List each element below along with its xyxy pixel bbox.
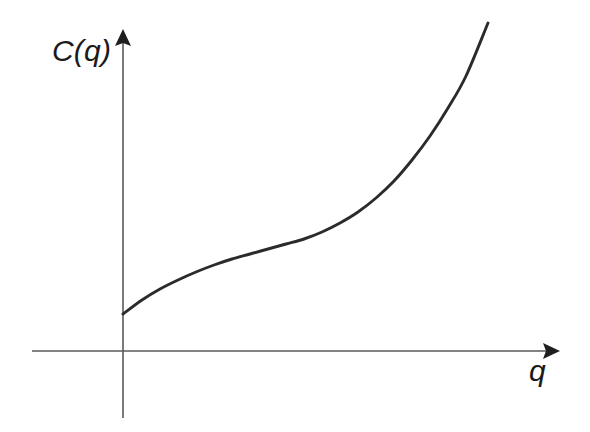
cost-curve-line: [123, 23, 488, 314]
cost-curve-figure: C(q) q: [0, 0, 590, 432]
y-axis-label: C(q): [52, 36, 111, 66]
x-axis-label: q: [529, 356, 546, 386]
